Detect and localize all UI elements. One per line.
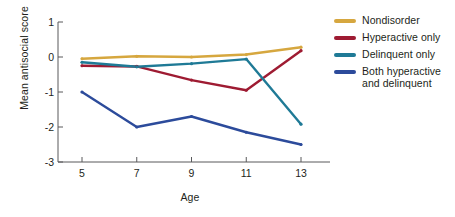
data-point (80, 90, 83, 93)
data-point (299, 49, 302, 52)
legend-item-label: Hyperactive only (362, 31, 440, 43)
legend-item[interactable]: Delinquent only (334, 48, 455, 60)
x-axis-tick-labels: 5791113 (0, 168, 340, 186)
data-point (80, 64, 83, 67)
data-point (245, 131, 248, 134)
data-point (190, 79, 193, 82)
x-tick-label: 7 (122, 168, 152, 179)
data-point (245, 53, 248, 56)
series-lines (82, 47, 301, 144)
data-point (190, 62, 193, 65)
data-point (135, 55, 138, 58)
data-point (299, 46, 302, 49)
series-line-3 (82, 92, 301, 145)
legend-color-swatch-icon (334, 36, 356, 40)
axis-tick-marks (58, 22, 301, 162)
chart-figure: Mean antisocial score 10-1-2-3 5791113 A… (0, 0, 455, 217)
data-point (80, 57, 83, 60)
chart-legend: NondisorderHyperactive onlyDelinquent on… (334, 14, 455, 94)
legend-item[interactable]: Nondisorder (334, 14, 455, 26)
data-point (245, 89, 248, 92)
legend-item-label: Both hyperactive and delinquent (362, 65, 441, 90)
data-point (135, 125, 138, 128)
legend-color-swatch-icon (334, 19, 356, 23)
legend-item[interactable]: Hyperactive only (334, 31, 455, 43)
data-point (245, 58, 248, 61)
series-line-2 (82, 59, 301, 124)
data-point (299, 143, 302, 146)
x-tick-label: 5 (67, 168, 97, 179)
data-point (80, 61, 83, 64)
legend-color-swatch-icon (334, 70, 356, 74)
x-tick-label: 11 (231, 168, 261, 179)
data-point (299, 123, 302, 126)
legend-item-label: Nondisorder (362, 14, 420, 26)
x-tick-label: 9 (177, 168, 207, 179)
x-tick-label: 13 (286, 168, 316, 179)
legend-item-label: Delinquent only (362, 48, 435, 60)
x-axis-title: Age (60, 191, 320, 203)
series-points (80, 46, 302, 146)
legend-color-swatch-icon (334, 53, 356, 57)
data-point (135, 65, 138, 68)
data-point (190, 55, 193, 58)
legend-item[interactable]: Both hyperactive and delinquent (334, 65, 455, 90)
data-point (190, 115, 193, 118)
